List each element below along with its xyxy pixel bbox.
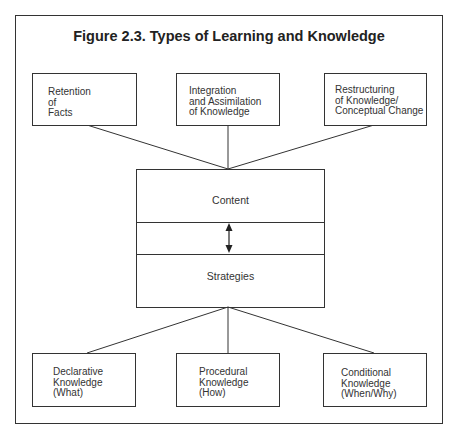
box-label: Restructuring of Knowledge/ Conceptual C… [335, 85, 423, 117]
box-integration-assimilation: Integration and Assimilation of Knowledg… [176, 73, 280, 126]
divider-bottom [137, 254, 324, 255]
box-retention-of-facts: Retention of Facts [32, 73, 137, 126]
box-declarative-knowledge: Declarative Knowledge (What) [32, 353, 136, 407]
box-label: Declarative Knowledge (What) [53, 367, 103, 399]
box-label: Integration and Assimilation of Knowledg… [189, 86, 261, 118]
box-restructuring: Restructuring of Knowledge/ Conceptual C… [324, 73, 427, 126]
box-label: Conditional Knowledge (When/Why) [341, 368, 397, 400]
strategies-label: Strategies [137, 270, 324, 282]
box-conditional-knowledge: Conditional Knowledge (When/Why) [323, 353, 427, 407]
double-arrow-icon [223, 222, 235, 254]
box-label: Retention of Facts [48, 87, 91, 119]
content-strategies-box: Content Strategies [136, 169, 325, 308]
content-label: Content [137, 194, 324, 206]
box-procedural-knowledge: Procedural Knowledge (How) [176, 353, 280, 407]
box-label: Procedural Knowledge (How) [199, 367, 248, 399]
